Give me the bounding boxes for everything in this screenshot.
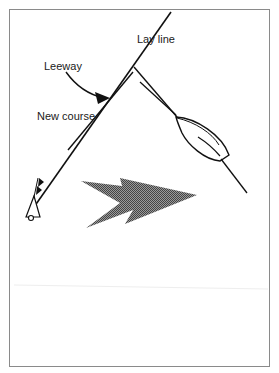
new-course-label: New course: [37, 111, 95, 122]
sailing-diagram: [0, 0, 279, 373]
leeway-label: Leeway: [44, 61, 82, 72]
lay-line-label: Lay line: [137, 34, 175, 45]
